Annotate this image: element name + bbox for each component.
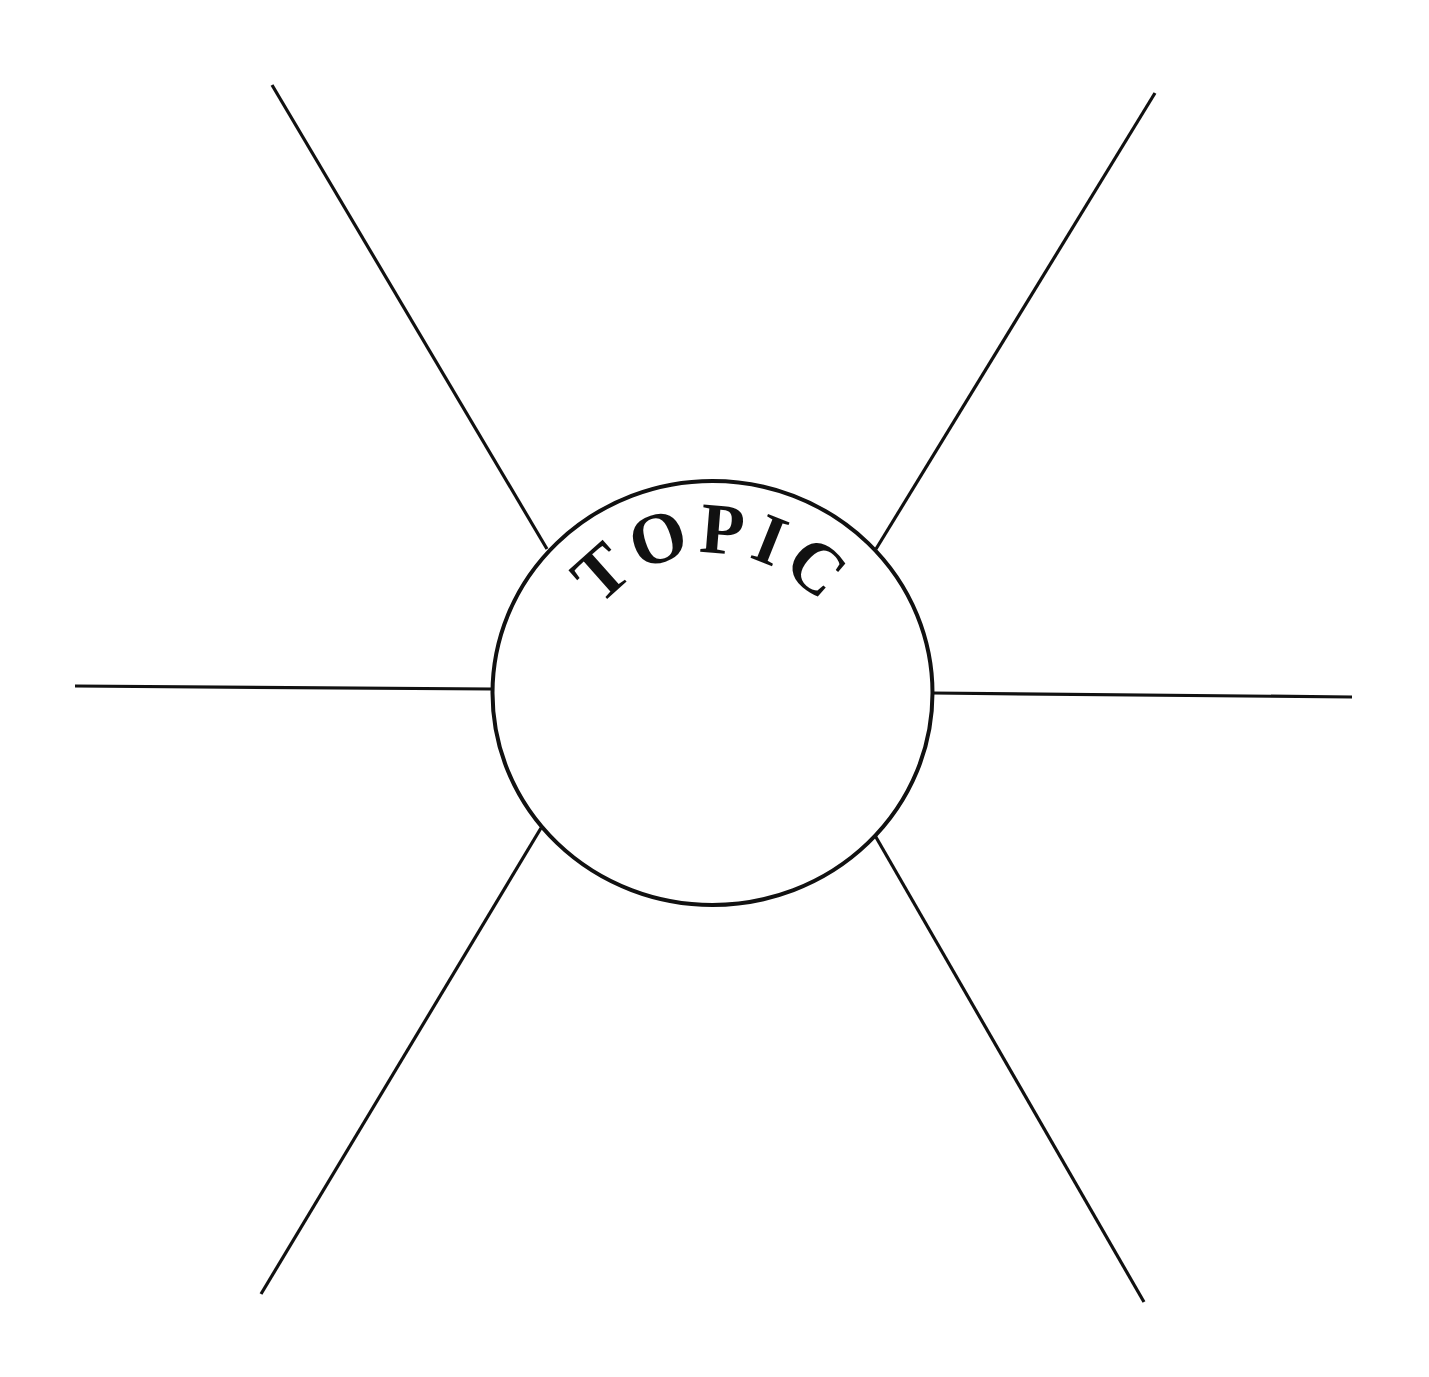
spoke-line-top-right [876,93,1155,549]
spoke-line-top-left [272,85,547,549]
spoke-line-right [932,693,1352,697]
spoke-line-left [75,686,492,689]
spoke-line-bottom-right [873,832,1144,1302]
spider-diagram: TOPIC [0,0,1429,1377]
spoke-line-bottom-left [261,828,541,1294]
